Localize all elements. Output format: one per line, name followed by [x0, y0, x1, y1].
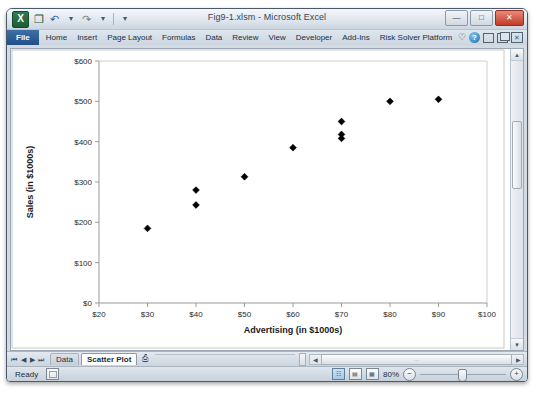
page-layout-view-glyph: ▤ — [352, 371, 358, 377]
svg-text:$90: $90 — [432, 310, 446, 319]
normal-view-glyph: ☷ — [336, 371, 341, 377]
tab-view[interactable]: View — [264, 30, 291, 45]
scroll-down-button[interactable]: ▼ — [511, 338, 523, 350]
excel-window: X ❐ ↶ ▾ ↷ ▾ ▾ Fig9-1.xlsm - Microsoft Ex… — [6, 8, 528, 382]
svg-text:$30: $30 — [141, 310, 155, 319]
first-sheet-button[interactable]: ⏮ — [10, 356, 18, 363]
svg-text:$70: $70 — [335, 310, 349, 319]
title-bar: X ❐ ↶ ▾ ↷ ▾ ▾ Fig9-1.xlsm - Microsoft Ex… — [7, 9, 527, 30]
scroll-right-button[interactable]: ▶ — [513, 356, 523, 363]
tab-file[interactable]: File — [7, 30, 39, 45]
tab-formulas[interactable]: Formulas — [157, 30, 200, 45]
new-sheet-icon[interactable]: ⎙ — [139, 354, 151, 364]
ribbon-right-icons: ♡ ? ✕ — [458, 30, 527, 45]
svg-text:$80: $80 — [383, 310, 397, 319]
tab-home[interactable]: Home — [41, 30, 72, 45]
tab-developer[interactable]: Developer — [291, 30, 337, 45]
status-text: Ready — [11, 370, 42, 379]
horizontal-scroll-thumb[interactable]: … — [321, 354, 512, 365]
svg-text:Sales (in $1000s): Sales (in $1000s) — [25, 146, 35, 219]
vertical-scroll-thumb[interactable] — [512, 121, 522, 189]
sheet-tab-bar: ⏮ ◀ ▶ ⏭ Data Scatter Plot ⎙ ◀ … ▶ — [7, 351, 527, 366]
svg-text:$600: $600 — [74, 57, 92, 66]
restore-window-icon[interactable] — [497, 33, 508, 43]
sheet-tab-scatter-plot[interactable]: Scatter Plot — [81, 353, 137, 366]
ribbon-tab-bar: File Home Insert Page Layout Formulas Da… — [7, 30, 527, 46]
svg-text:$20: $20 — [92, 310, 106, 319]
zoom-slider-thumb[interactable] — [458, 369, 467, 382]
status-bar-right: ☷ ▤ ▦ 80% − + — [332, 368, 523, 381]
tab-insert[interactable]: Insert — [72, 30, 102, 45]
tab-page-layout[interactable]: Page Layout — [102, 30, 157, 45]
sheet-nav-buttons: ⏮ ◀ ▶ ⏭ — [10, 356, 45, 363]
last-sheet-button[interactable]: ⏭ — [37, 356, 45, 363]
minimize-button[interactable]: — — [445, 10, 468, 26]
svg-text:$200: $200 — [74, 218, 92, 227]
restore-button[interactable]: □ — [470, 10, 493, 26]
horizontal-scrollbar[interactable]: ◀ … ▶ — [309, 354, 524, 365]
svg-text:$60: $60 — [286, 310, 300, 319]
close-button[interactable]: ✕ — [495, 10, 524, 26]
scroll-up-button[interactable]: ▲ — [511, 49, 523, 61]
record-macro-icon[interactable] — [46, 368, 59, 380]
zoom-in-button[interactable]: + — [510, 368, 523, 381]
tab-add-ins[interactable]: Add-Ins — [337, 30, 375, 45]
svg-text:$0: $0 — [83, 299, 92, 308]
workbook-body: $0$100$200$300$400$500$600$20$30$40$50$6… — [7, 45, 527, 351]
scatter-chart[interactable]: $0$100$200$300$400$500$600$20$30$40$50$6… — [11, 49, 511, 350]
page-break-preview-glyph: ▦ — [369, 371, 375, 377]
help-icon[interactable]: ? — [469, 32, 480, 43]
svg-text:$500: $500 — [74, 97, 92, 106]
svg-text:$100: $100 — [74, 259, 92, 268]
status-bar: Ready ☷ ▤ ▦ 80% − + — [7, 366, 527, 381]
normal-view-button[interactable]: ☷ — [332, 368, 345, 380]
svg-text:$400: $400 — [74, 138, 92, 147]
window-controls: — □ ✕ — [445, 10, 524, 26]
svg-text:$300: $300 — [74, 178, 92, 187]
page-break-preview-button[interactable]: ▦ — [366, 368, 379, 380]
sheet-tab-data[interactable]: Data — [50, 353, 79, 366]
tab-review[interactable]: Review — [227, 30, 263, 45]
scroll-left-button[interactable]: ◀ — [310, 356, 320, 363]
sheet-tab-filler — [155, 354, 295, 364]
svg-text:$50: $50 — [238, 310, 252, 319]
zoom-slider[interactable] — [420, 374, 506, 375]
close-window-icon[interactable]: ✕ — [511, 32, 523, 43]
pane-splitter-handle[interactable] — [299, 353, 306, 366]
vertical-scrollbar[interactable]: ▲ ▼ — [510, 49, 523, 350]
tab-risk-solver-platform[interactable]: Risk Solver Platform — [375, 30, 457, 45]
chart-canvas: $0$100$200$300$400$500$600$20$30$40$50$6… — [11, 49, 505, 349]
favorite-icon[interactable]: ♡ — [458, 33, 466, 42]
page-layout-view-button[interactable]: ▤ — [349, 368, 362, 380]
zoom-level-label[interactable]: 80% — [383, 370, 399, 379]
next-sheet-button[interactable]: ▶ — [28, 356, 36, 363]
tab-data[interactable]: Data — [200, 30, 227, 45]
svg-text:Advertising (in $1000s): Advertising (in $1000s) — [244, 325, 343, 335]
prev-sheet-button[interactable]: ◀ — [19, 356, 27, 363]
minimize-ribbon-icon[interactable] — [483, 33, 494, 43]
zoom-out-button[interactable]: − — [403, 368, 416, 381]
svg-text:$40: $40 — [189, 310, 203, 319]
worksheet-pane: $0$100$200$300$400$500$600$20$30$40$50$6… — [10, 48, 524, 351]
svg-text:$100: $100 — [478, 310, 496, 319]
